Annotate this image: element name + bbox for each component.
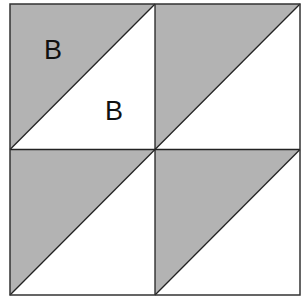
- cell-top-right: [155, 4, 300, 150]
- cell-bottom-right: [155, 150, 300, 296]
- label-unshaded-b: B: [105, 96, 123, 126]
- quilt-diagram: B B: [0, 0, 305, 301]
- label-shaded-b: B: [44, 35, 62, 65]
- cell-top-left: [10, 4, 155, 150]
- cell-bottom-left: [10, 150, 155, 296]
